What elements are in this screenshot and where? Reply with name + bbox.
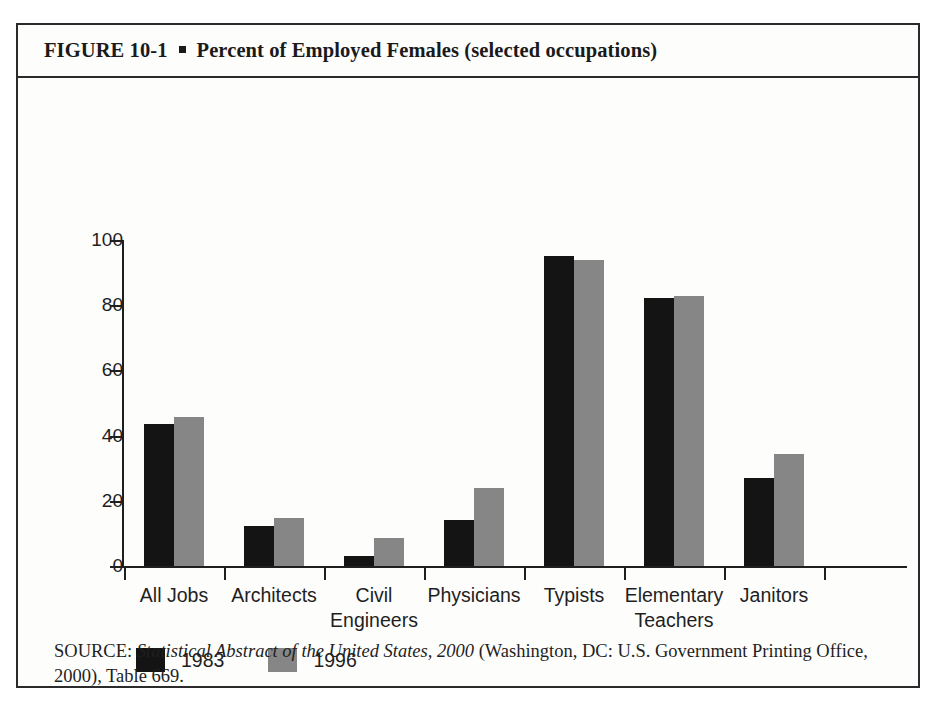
bar-elementary-teachers-1996	[674, 296, 704, 566]
bar-all-jobs-1983	[144, 424, 174, 566]
bar-janitors-1983	[744, 478, 774, 566]
bar-physicians-1983	[444, 520, 474, 566]
plot-region: 020406080100 All JobsArchitectsCivilEngi…	[18, 78, 918, 686]
bar-elementary-teachers-1983	[644, 298, 674, 566]
x-tick-mark	[124, 568, 126, 580]
x-tick-mark	[624, 568, 626, 580]
x-tick-mark	[324, 568, 326, 580]
bar-chart: 020406080100 All JobsArchitectsCivilEngi…	[18, 78, 918, 688]
source-note: SOURCE: Statistical Abstract of the Unit…	[54, 639, 899, 689]
figure-frame: FIGURE 10-1 Percent of Employed Females …	[16, 23, 920, 688]
category-label-line: Engineers	[294, 608, 454, 633]
x-axis-line	[122, 566, 907, 568]
bar-typists-1983	[544, 256, 574, 566]
x-tick-mark	[724, 568, 726, 580]
bar-all-jobs-1996	[174, 417, 204, 566]
figure-number: FIGURE 10-1	[44, 39, 168, 62]
x-tick-mark	[224, 568, 226, 580]
x-tick-mark	[424, 568, 426, 580]
bar-janitors-1996	[774, 454, 804, 566]
bar-civil-engineers-1996	[374, 538, 404, 566]
square-bullet-icon	[179, 46, 186, 53]
source-publication: Statistical Abstract of the United State…	[137, 641, 474, 661]
category-label-line: Teachers	[594, 608, 754, 633]
category-label-line: Janitors	[694, 583, 854, 608]
category-label-janitors: Janitors	[694, 583, 854, 608]
bar-typists-1996	[574, 260, 604, 566]
bars-layer	[18, 78, 918, 566]
figure-title: Percent of Employed Females (selected oc…	[197, 39, 658, 62]
source-prefix: SOURCE:	[54, 641, 132, 661]
bar-physicians-1996	[474, 488, 504, 566]
bar-architects-1996	[274, 518, 304, 566]
x-tick-mark	[824, 568, 826, 580]
figure-title-bar: FIGURE 10-1 Percent of Employed Females …	[18, 25, 918, 78]
x-tick-mark	[524, 568, 526, 580]
bar-civil-engineers-1983	[344, 556, 374, 566]
bar-architects-1983	[244, 526, 274, 566]
